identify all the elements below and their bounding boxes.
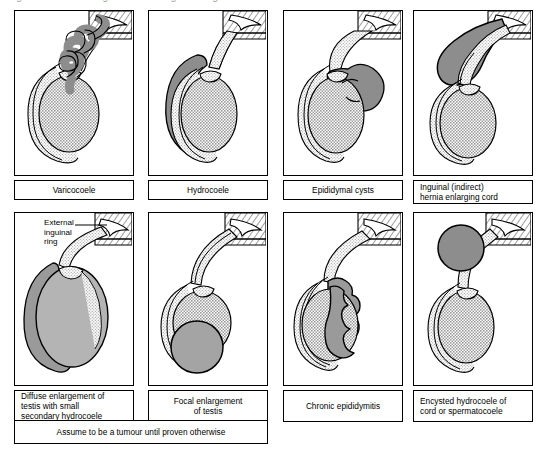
panel-focal-enlargement[interactable]: Focal enlargement of testis — [148, 212, 268, 414]
panel-diffuse-enlargement[interactable]: External inguinal ring Diffuse enlargeme… — [14, 212, 134, 414]
caption-text: Chronic epididymitis — [306, 401, 380, 411]
bottom-note-banner: Assume to be a tumour until proven other… — [14, 420, 268, 444]
illustration-diffuse-enlargement — [14, 212, 134, 386]
caption-text: Hydrocoele — [187, 185, 229, 195]
panel-varicocoele[interactable]: Varicocoele — [14, 10, 134, 198]
illustration-focal-enlargement — [148, 212, 268, 386]
caption-text: Diffuse enlargement of testis with small… — [21, 391, 104, 422]
caption-text: Epididymal cysts — [312, 185, 374, 195]
caption-focal-enlargement: Focal enlargement of testis — [148, 390, 268, 422]
panel-inguinal-hernia[interactable]: Inguinal (indirect) hernia enlarging cor… — [413, 10, 533, 198]
annotation-external-inguinal-ring: External inguinal ring — [44, 218, 74, 247]
caption-varicocoele: Varicocoele — [14, 180, 134, 200]
figure-title: Fig. ... Scrotal swellings and their dia… — [8, 0, 538, 3]
illustration-encysted-hydrocoele — [413, 212, 533, 386]
caption-text: Encysted hydrocoele of cord or spermatoc… — [420, 396, 506, 416]
illustration-epididymal-cysts — [283, 10, 403, 176]
panel-encysted-hydrocoele[interactable]: Encysted hydrocoele of cord or spermatoc… — [413, 212, 533, 414]
caption-inguinal-hernia: Inguinal (indirect) hernia enlarging cor… — [413, 180, 533, 204]
bottom-note-text: Assume to be a tumour until proven other… — [57, 427, 226, 437]
figure-canvas: Fig. ... Scrotal swellings and their dia… — [0, 0, 543, 459]
caption-diffuse-enlargement: Diffuse enlargement of testis with small… — [14, 390, 134, 422]
caption-text: Focal enlargement of testis — [174, 396, 243, 416]
illustration-varicocoele — [14, 10, 134, 176]
caption-chronic-epididymitis: Chronic epididymitis — [283, 390, 403, 422]
panel-epididymal-cysts[interactable]: Epididymal cysts — [283, 10, 403, 198]
caption-hydrocoele: Hydrocoele — [148, 180, 268, 200]
illustration-inguinal-hernia — [413, 10, 533, 176]
illustration-hydrocoele — [148, 10, 268, 176]
caption-text: Varicocoele — [53, 185, 96, 195]
caption-epididymal-cysts: Epididymal cysts — [283, 180, 403, 200]
caption-text: Inguinal (indirect) hernia enlarging cor… — [420, 182, 498, 202]
caption-encysted-hydrocoele: Encysted hydrocoele of cord or spermatoc… — [413, 390, 533, 422]
illustration-chronic-epididymitis — [283, 212, 403, 386]
panel-chronic-epididymitis[interactable]: Chronic epididymitis — [283, 212, 403, 414]
panel-hydrocoele[interactable]: Hydrocoele — [148, 10, 268, 198]
